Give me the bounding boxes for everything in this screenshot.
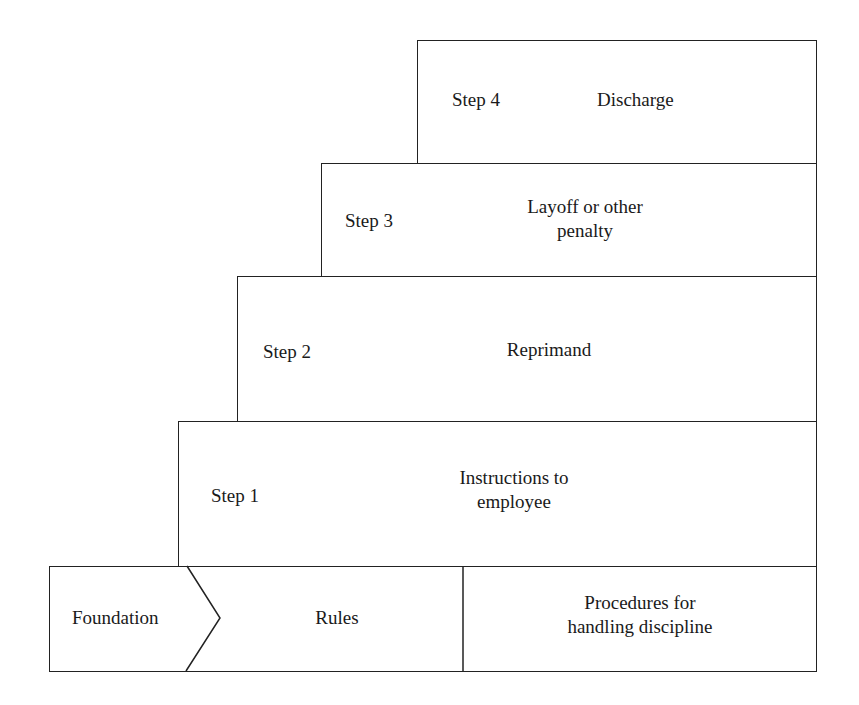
rules-label: Rules [315,606,358,630]
procedures-line2: handling discipline [567,615,712,639]
foundation-chevron-and-divider [0,0,859,705]
procedures-line1: Procedures for [584,591,695,615]
foundation-label: Foundation [72,606,159,630]
